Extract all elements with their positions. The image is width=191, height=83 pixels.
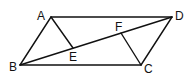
label-c: C [144, 62, 153, 76]
segment-ae [51, 17, 73, 48]
label-f: F [115, 20, 122, 34]
segments-group [20, 17, 172, 65]
label-d: D [175, 9, 184, 23]
segment-bd [20, 17, 172, 65]
segment-ba [20, 17, 51, 65]
label-b: B [9, 60, 17, 74]
segment-cf [121, 33, 141, 65]
geometry-diagram: A B C D E F [0, 0, 191, 83]
segment-dc [141, 17, 172, 65]
label-e: E [69, 50, 77, 64]
label-a: A [37, 9, 45, 23]
